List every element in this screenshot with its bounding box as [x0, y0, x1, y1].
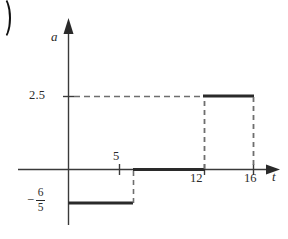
fraction: 6 5: [36, 187, 45, 213]
y-tick-label-2.5: 2.5: [29, 89, 45, 102]
x-tick-label-5: 5: [113, 150, 119, 163]
y-value-label-negative-six-fifths: − 6 5: [27, 187, 45, 213]
step-function-figure: a t 2.5 5 12 16 − 6 5: [0, 0, 288, 239]
fraction-numerator: 6: [37, 187, 45, 199]
y-axis-arrow: [64, 18, 74, 34]
minus-sign: −: [27, 194, 34, 207]
x-axis-label: t: [272, 170, 276, 183]
y-axis-label: a: [51, 30, 58, 43]
fraction-denominator: 5: [37, 202, 45, 214]
x-tick-label-12: 12: [190, 172, 203, 185]
x-tick-label-16: 16: [244, 172, 257, 185]
